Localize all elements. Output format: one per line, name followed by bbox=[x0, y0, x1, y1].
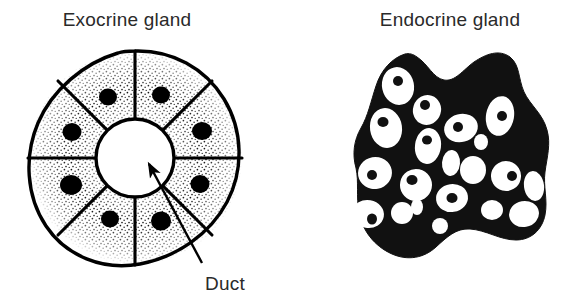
cell-nucleus bbox=[101, 211, 119, 228]
endocrine-cell bbox=[411, 199, 423, 215]
endocrine-cell-mass bbox=[350, 53, 549, 258]
duct-label: Duct bbox=[205, 273, 245, 294]
endocrine-nucleus bbox=[367, 170, 377, 180]
endocrine-cell bbox=[391, 202, 413, 224]
endocrine-nucleus bbox=[447, 193, 458, 203]
endocrine-cell bbox=[474, 134, 488, 150]
endocrine-gland-title: Endocrine gland bbox=[380, 9, 520, 30]
endocrine-nucleus bbox=[507, 171, 517, 181]
cell-nucleus bbox=[192, 122, 212, 140]
endocrine-nucleus bbox=[420, 100, 430, 110]
endocrine-nucleus bbox=[393, 76, 403, 86]
endocrine-nucleus bbox=[407, 175, 418, 185]
exocrine-acinus bbox=[28, 51, 242, 266]
endocrine-nucleus bbox=[422, 136, 432, 145]
endocrine-cell bbox=[460, 156, 486, 184]
cell-nucleus bbox=[99, 89, 117, 106]
endocrine-nucleus bbox=[453, 122, 463, 132]
gland-comparison-figure: Exocrine gland bbox=[0, 0, 570, 305]
endocrine-cell bbox=[432, 218, 448, 234]
endocrine-nucleus bbox=[497, 111, 507, 121]
cell-nucleus bbox=[151, 212, 171, 231]
endocrine-cell bbox=[481, 200, 503, 220]
exocrine-gland-title: Exocrine gland bbox=[63, 9, 192, 30]
duct-lumen bbox=[96, 119, 174, 197]
cell-nucleus bbox=[63, 123, 82, 141]
cell-nucleus bbox=[152, 87, 170, 104]
cell-nucleus bbox=[191, 175, 210, 193]
cell-nucleus bbox=[60, 175, 82, 195]
endocrine-nucleus bbox=[378, 117, 389, 127]
endocrine-nucleus bbox=[367, 214, 377, 225]
